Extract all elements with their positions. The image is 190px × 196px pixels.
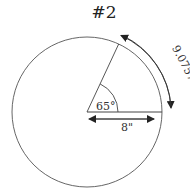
circle-diagram: 65° 8" 9.0757" (0, 0, 190, 196)
angle-label: 65° (96, 100, 116, 113)
arc-length-label: 9.0757" (169, 43, 190, 88)
radius-label: 8" (121, 121, 133, 134)
arc-length-arrow (124, 36, 172, 108)
